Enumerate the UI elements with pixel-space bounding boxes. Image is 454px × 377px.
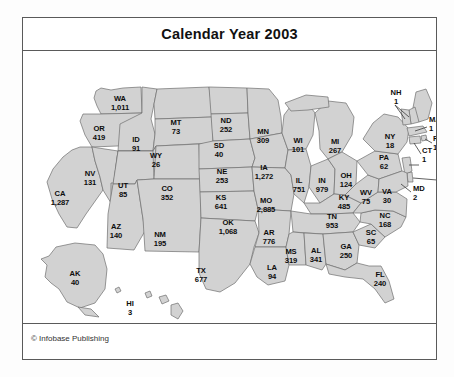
state-label-AL: AL341 (310, 247, 322, 264)
state-HI-4 (171, 303, 183, 319)
state-label-CA: CA1,287 (51, 190, 70, 207)
state-label-TX: TX677 (195, 267, 207, 284)
state-label-RI: RI1 (433, 135, 436, 152)
state-label-NV: NV131 (84, 170, 96, 187)
state-label-AK: AK40 (70, 270, 81, 287)
state-MA (407, 126, 427, 136)
state-label-MS: MS319 (285, 248, 297, 265)
state-label-MD: MD2 (413, 185, 425, 202)
state-label-NC: NC168 (379, 212, 391, 229)
page-title: Calendar Year 2003 (161, 26, 297, 42)
state-CT (409, 136, 421, 144)
state-label-WI: WI101 (292, 137, 304, 154)
state-OK (200, 191, 258, 221)
state-label-NH: NH1 (391, 89, 402, 106)
leader-RI (425, 139, 432, 143)
state-AK-tail (78, 307, 99, 317)
state-label-OR: OR419 (93, 125, 105, 142)
state-label-WY: WY26 (150, 152, 162, 169)
state-label-IL: IL751 (293, 177, 305, 194)
map-figure: Calendar Year 2003 (0, 0, 454, 377)
us-map-canvas: WA1,011 MT73 ND252 MN309 WI101 MI267 NH1… (23, 51, 436, 323)
state-label-WA: WA1,011 (111, 95, 129, 112)
state-NE (199, 139, 255, 169)
state-label-ID: ID91 (132, 136, 140, 153)
state-label-IA: IA1,272 (255, 164, 274, 181)
title-bar: Calendar Year 2003 (23, 18, 436, 51)
state-label-WV: WV75 (360, 189, 372, 206)
state-label-CT: CT1 (422, 147, 432, 164)
state-HI-1 (115, 287, 121, 293)
state-label-HI: HI3 (126, 300, 133, 317)
state-label-OH: OH124 (340, 172, 352, 189)
state-label-MA: MA1 (429, 116, 436, 133)
state-HI-3 (159, 295, 169, 304)
state-label-KY: KY485 (338, 194, 350, 211)
leader-DE (413, 178, 436, 180)
state-label-FL: FL240 (374, 271, 386, 288)
state-label-PA: PA62 (379, 154, 389, 171)
state-label-ND: ND252 (220, 117, 232, 134)
state-label-MN: MN309 (257, 128, 269, 145)
state-label-SC: SC65 (366, 229, 376, 246)
state-RI (421, 135, 427, 141)
state-label-GA: GA250 (340, 243, 352, 260)
copyright-notice: © Infobase Publishing (31, 334, 109, 343)
state-label-NY: NY18 (385, 133, 395, 150)
state-label-CO: CO352 (161, 185, 173, 202)
state-ND (209, 87, 248, 114)
state-label-VA: VA30 (382, 188, 392, 205)
state-label-NE: NE253 (216, 168, 228, 185)
state-label-MO: MO2,885 (257, 197, 276, 214)
state-label-UT: UT85 (118, 182, 128, 199)
state-label-AR: AR776 (263, 229, 275, 246)
figure-frame: Calendar Year 2003 (22, 17, 437, 360)
state-label-TN: TN953 (326, 213, 338, 230)
state-label-LA: LA94 (267, 264, 277, 281)
state-label-SD: SD40 (214, 142, 224, 159)
state-label-AZ: AZ140 (110, 223, 122, 240)
state-label-OK: OK1,068 (219, 219, 238, 236)
state-label-MI: MI267 (329, 138, 341, 155)
state-label-NM: NM195 (154, 231, 166, 248)
state-HI-2 (145, 291, 152, 298)
state-MT (154, 87, 212, 119)
leader-CT (414, 143, 421, 154)
state-label-KS: KS641 (215, 194, 227, 211)
state-label-MT: MT73 (171, 119, 182, 136)
state-label-IN: IN979 (316, 177, 328, 194)
